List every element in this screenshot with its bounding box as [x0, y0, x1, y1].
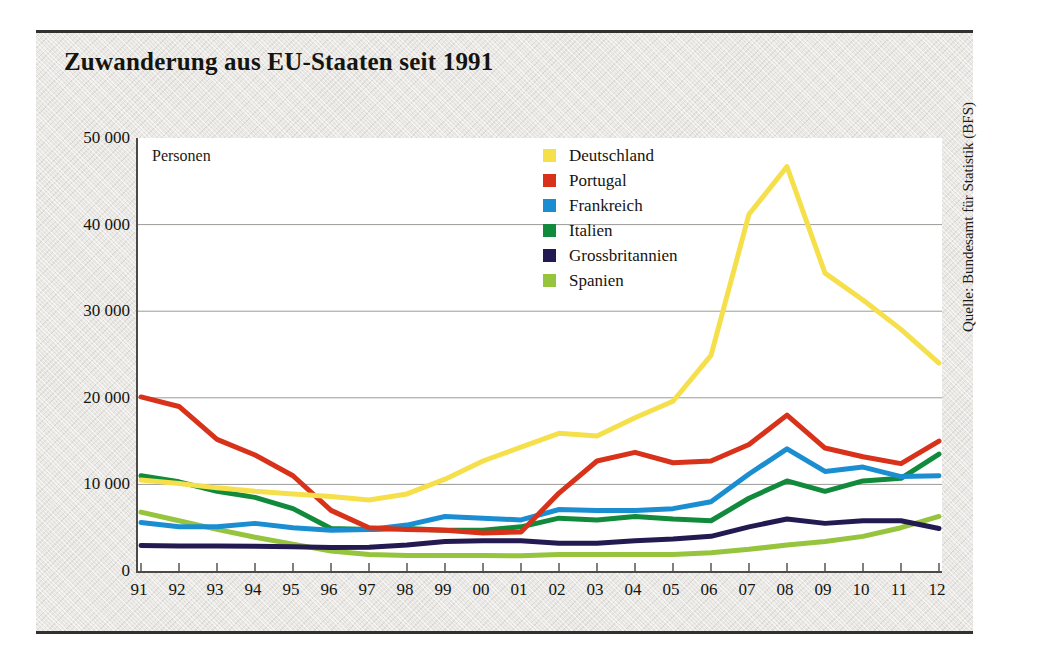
x-tick-label: 09 [815, 580, 832, 600]
x-tick-label: 97 [359, 580, 376, 600]
panel-bottom-rule [36, 631, 973, 634]
y-tick-label: 10 000 [44, 474, 130, 494]
legend-swatch-icon [543, 174, 556, 187]
x-tick-label: 07 [739, 580, 756, 600]
x-tick-label: 94 [245, 580, 262, 600]
x-tick-label: 01 [511, 580, 528, 600]
x-tick-label: 93 [207, 580, 224, 600]
legend-item-label: Spanien [569, 272, 624, 289]
x-tick-label: 02 [549, 580, 566, 600]
y-axis-tick-labels: 010 00020 00030 00040 00050 000 [40, 138, 130, 571]
legend-swatch-icon [543, 224, 556, 237]
panel-top-rule [36, 30, 973, 33]
y-tick-label: 30 000 [44, 301, 130, 321]
x-tick-label: 05 [663, 580, 680, 600]
plot-area [136, 138, 942, 573]
x-tick-label: 95 [283, 580, 300, 600]
legend-swatch-icon [543, 199, 556, 212]
x-tick-label: 99 [435, 580, 452, 600]
legend-item-frankreich[interactable]: Frankreich [543, 193, 783, 218]
legend-item-label: Frankreich [569, 197, 643, 214]
y-tick-label: 20 000 [44, 388, 130, 408]
plot-inner [138, 138, 942, 571]
x-tick-label: 12 [929, 580, 946, 600]
series-line-spanien [141, 512, 939, 556]
x-tick-label: 98 [397, 580, 414, 600]
chart-legend: DeutschlandPortugalFrankreichItalienGros… [543, 143, 783, 293]
x-tick-label: 04 [625, 580, 642, 600]
series-line-deutschland [141, 167, 939, 500]
x-tick-label: 00 [473, 580, 490, 600]
legend-item-label: Grossbritannien [569, 247, 678, 264]
x-tick-label: 03 [587, 580, 604, 600]
x-tick-label: 10 [853, 580, 870, 600]
x-tick-label: 91 [131, 580, 148, 600]
x-axis-tick-labels: 9192939495969798990001020304050607080910… [136, 580, 940, 606]
y-tick-label: 50 000 [44, 128, 130, 148]
x-tick-label: 06 [701, 580, 718, 600]
legend-item-label: Deutschland [569, 147, 654, 164]
legend-item-label: Portugal [569, 172, 627, 189]
legend-item-portugal[interactable]: Portugal [543, 168, 783, 193]
x-tick-label: 92 [169, 580, 186, 600]
legend-item-grossbritannien[interactable]: Grossbritannien [543, 243, 783, 268]
source-note: Quelle: Bundesamt für Statistik (BFS) [960, 102, 977, 332]
legend-item-label: Italien [569, 222, 612, 239]
y-axis-unit-label: Personen [152, 147, 211, 165]
legend-swatch-icon [543, 274, 556, 287]
legend-swatch-icon [543, 249, 556, 262]
chart-svg [138, 138, 942, 571]
legend-item-deutschland[interactable]: Deutschland [543, 143, 783, 168]
legend-item-italien[interactable]: Italien [543, 218, 783, 243]
y-tick-label: 0 [44, 561, 130, 581]
series-line-portugal [141, 397, 939, 533]
x-tick-label: 11 [891, 580, 907, 600]
chart-title: Zuwanderung aus EU-Staaten seit 1991 [64, 48, 493, 76]
x-tick-label: 08 [777, 580, 794, 600]
legend-swatch-icon [543, 149, 556, 162]
x-tick-label: 96 [321, 580, 338, 600]
y-tick-label: 40 000 [44, 215, 130, 235]
legend-item-spanien[interactable]: Spanien [543, 268, 783, 293]
